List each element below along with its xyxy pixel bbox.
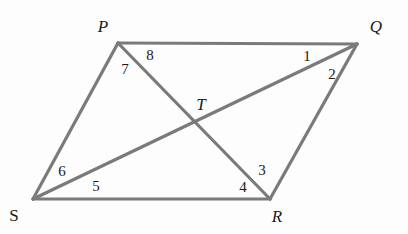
angle-label-7: 7 <box>121 62 129 77</box>
angle-label-6: 6 <box>58 164 66 179</box>
angle-label-1: 1 <box>303 49 311 64</box>
segments-group <box>33 43 357 199</box>
angle-label-4: 4 <box>239 180 247 195</box>
side-sp <box>33 43 118 199</box>
side-pq <box>118 43 357 44</box>
vertex-label-t: T <box>196 96 205 113</box>
diagonal-qs <box>33 44 357 199</box>
vertex-label-q: Q <box>370 18 382 35</box>
vertex-label-p: P <box>98 18 108 35</box>
side-qr <box>270 44 357 199</box>
angle-label-2: 2 <box>328 67 336 82</box>
parallelogram-diagram <box>0 0 408 234</box>
angle-label-3: 3 <box>258 163 266 178</box>
vertex-label-r: R <box>272 208 282 225</box>
vertex-label-s: S <box>9 207 18 224</box>
geometry-figure: PQRST12345678 <box>0 0 408 234</box>
angle-label-5: 5 <box>92 179 100 194</box>
angle-label-8: 8 <box>146 48 154 63</box>
